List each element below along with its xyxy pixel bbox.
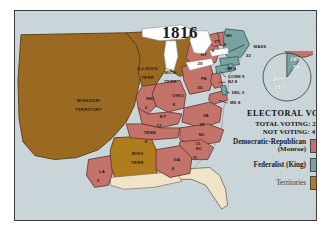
- pie-label-federalist-value: 34: [285, 63, 307, 70]
- legend-label-territories: Territories: [276, 179, 310, 187]
- legend-label-federalist: Federalist (King): [254, 161, 311, 169]
- pie-label-dr-value: 183: [267, 83, 291, 90]
- legend-swatch-democratic-republican: [310, 139, 317, 153]
- leader-del: [226, 91, 230, 93]
- electoral-vote-not-voting: NOT VOTING: 4: [239, 128, 317, 135]
- legend-item-federalist: Federalist (King): [231, 158, 317, 172]
- map-plate: MISSOURI TERRITORY ILLINOIS TERR MICH TE…: [14, 10, 317, 221]
- legend-dr-sublabel: (Monroe): [233, 146, 306, 154]
- electoral-vote-heading: ELECTORAL VOTE: [239, 109, 317, 118]
- electoral-vote-total: TOTAL VOTING: 217: [239, 120, 317, 127]
- leader-mass: [228, 45, 245, 53]
- pie-label-federalist-percent: 16%: [285, 55, 307, 62]
- map-title-year: 1816: [149, 23, 211, 43]
- electoral-vote-summary: ELECTORAL VOTE TOTAL VOTING: 217 NOT VOT…: [239, 109, 317, 135]
- map-legend: Democratic-Republican (Monroe) Federalis…: [231, 138, 317, 194]
- leader-ri: [226, 67, 233, 69]
- legend-item-territories: Territories: [231, 176, 317, 190]
- legend-label-democratic-republican: Democratic-Republican (Monroe): [233, 138, 310, 154]
- leader-conn: [221, 71, 226, 77]
- electoral-map-figure: MISSOURI TERRITORY ILLINOIS TERR MICH TE…: [0, 0, 331, 234]
- legend-item-democratic-republican: Democratic-Republican (Monroe): [231, 138, 317, 154]
- leader-md: [219, 100, 228, 103]
- legend-swatch-territories: [310, 176, 317, 190]
- legend-swatch-federalist: [310, 158, 317, 172]
- pie-label-dr-percent: 84%: [267, 75, 291, 82]
